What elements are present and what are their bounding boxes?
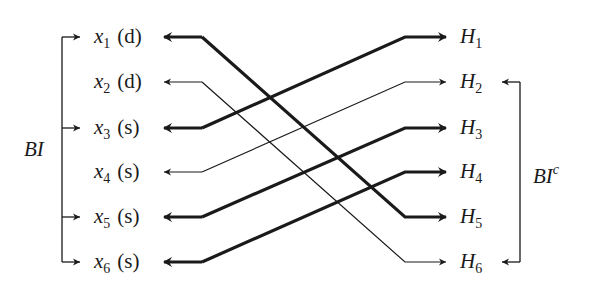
right-bracket-bic [502, 82, 520, 262]
left-node-x3: x3(s) [94, 117, 140, 142]
right-node-h1: H1 [460, 26, 482, 51]
left-node-x6: x6(s) [94, 251, 140, 276]
right-node-h3: H3 [460, 117, 482, 142]
right-group-label: BIc [533, 163, 559, 187]
right-node-h4: H4 [460, 161, 482, 186]
left-group-label: BI [24, 139, 44, 160]
left-node-x1: x1(d) [94, 26, 142, 51]
left-node-x5: x5(s) [94, 206, 140, 231]
diagram-canvas [0, 0, 602, 284]
left-bracket-bi [62, 37, 80, 262]
right-node-h6: H6 [460, 251, 482, 276]
right-node-h5: H5 [460, 206, 482, 231]
left-node-x2: x2(d) [94, 71, 142, 96]
right-node-h2: H2 [460, 71, 482, 96]
left-node-x4: x4(s) [94, 161, 140, 186]
